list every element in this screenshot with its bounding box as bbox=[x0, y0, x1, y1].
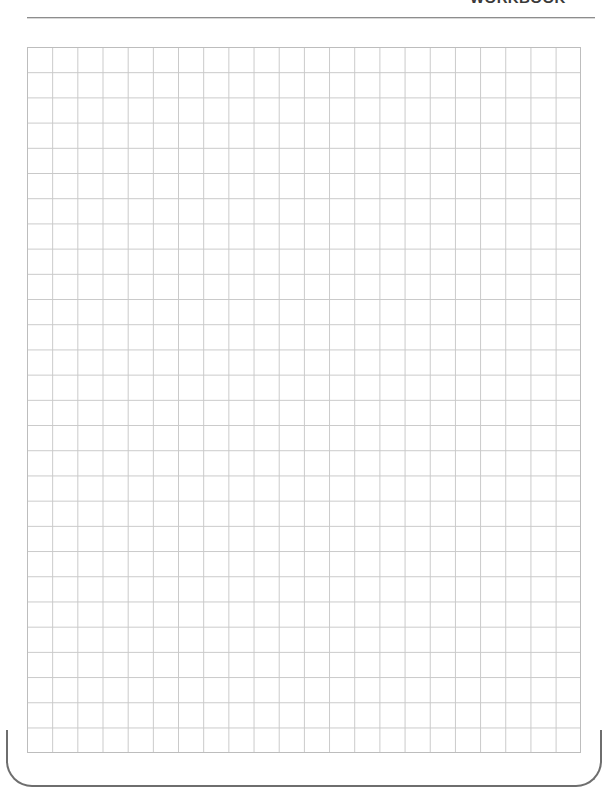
worksheet-page: WORKBOOK bbox=[0, 0, 614, 798]
sheet-right-edge-mask bbox=[597, 0, 603, 730]
page-title: WORKBOOK bbox=[470, 0, 590, 7]
graph-paper-grid bbox=[27, 47, 581, 753]
sheet-left-edge-mask bbox=[5, 0, 11, 730]
header-divider-shadow bbox=[27, 18, 595, 19]
